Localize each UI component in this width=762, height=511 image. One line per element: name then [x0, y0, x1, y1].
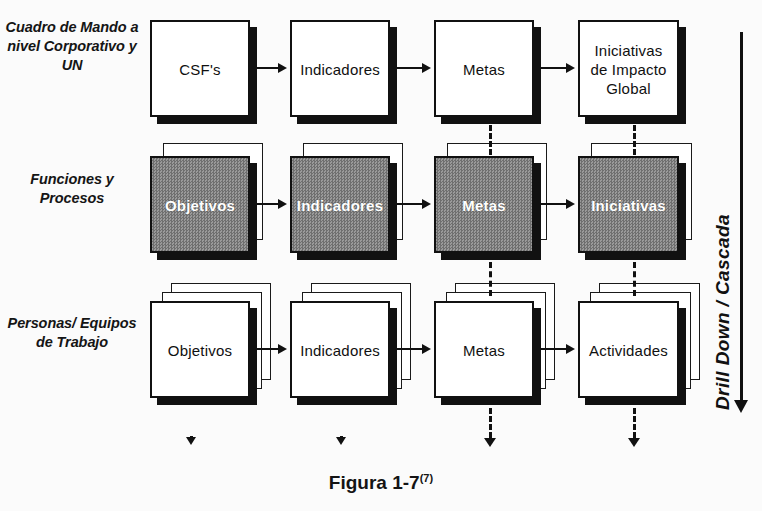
- box-front[interactable]: Iniciativas de Impacto Global: [578, 20, 679, 117]
- arrow-r1c2-to-r1c3: [394, 63, 432, 73]
- arrow-r2c3-to-r2c4: [538, 199, 576, 209]
- arrow-r1c1-to-r1c2: [254, 63, 288, 73]
- box-front[interactable]: Indicadores: [290, 301, 390, 398]
- arrow-r1c3-to-r1c4: [538, 63, 576, 73]
- node-label: CSF's: [152, 59, 248, 78]
- arrow-r2c2-to-r2c3: [394, 199, 432, 209]
- dashed-connector-c4-below: [633, 408, 636, 438]
- arrow-r3c1-to-r3c2: [254, 344, 288, 354]
- box-front[interactable]: CSF's: [150, 20, 250, 117]
- figure-caption-superscript: (7): [420, 472, 433, 484]
- box-front[interactable]: Objetivos: [150, 301, 250, 398]
- dashed-connector-c3-r1-r2: [489, 125, 492, 155]
- node-label: Metas: [436, 340, 532, 359]
- node-label: Iniciativas de Impacto Global: [580, 40, 677, 97]
- dashed-connector-c3-below: [489, 408, 492, 438]
- node-label: Indicadores: [292, 59, 388, 78]
- row-label-corporativo: Cuadro de Mando a nivel Corporativo y UN: [2, 18, 142, 75]
- arrow-r3c3-to-r3c4: [538, 344, 576, 354]
- node-label: Indicadores: [292, 195, 388, 214]
- drill-down-axis-line: [740, 32, 743, 402]
- figure-canvas: Cuadro de Mando a nivel Corporativo y UN…: [0, 0, 762, 511]
- row-label-funciones: Funciones y Procesos: [2, 170, 142, 208]
- node-label: Objetivos: [152, 195, 248, 214]
- tick-arrowhead-c2: [336, 437, 346, 445]
- dashed-connector-c4-r2-r3: [633, 262, 636, 296]
- node-label: Indicadores: [292, 340, 388, 359]
- box-front[interactable]: Actividades: [578, 301, 679, 398]
- node-label: Metas: [436, 195, 532, 214]
- drill-down-axis-label: Drill Down / Cascada: [712, 214, 734, 410]
- box-front[interactable]: Metas: [434, 301, 534, 398]
- figure-caption: Figura 1-7(7): [0, 472, 762, 494]
- dashed-connector-c4-r1-r2: [633, 125, 636, 155]
- arrow-r3c2-to-r3c3: [394, 344, 432, 354]
- tick-arrowhead-c1: [186, 437, 196, 445]
- box-front[interactable]: Metas: [434, 20, 534, 117]
- drill-down-axis-arrowhead: [734, 400, 748, 413]
- node-label: Objetivos: [152, 340, 248, 359]
- node-label: Metas: [436, 59, 532, 78]
- node-label: Actividades: [580, 340, 677, 359]
- box-front[interactable]: Indicadores: [290, 20, 390, 117]
- dashed-connector-c3-r2-r3: [489, 262, 492, 296]
- figure-caption-text: Figura 1-7: [329, 472, 420, 493]
- box-front[interactable]: Iniciativas: [578, 156, 679, 253]
- box-front[interactable]: Objetivos: [150, 156, 250, 253]
- dashed-arrowhead-c4: [628, 438, 640, 447]
- box-front[interactable]: Metas: [434, 156, 534, 253]
- row-label-personas: Personas/ Equipos de Trabajo: [2, 314, 142, 352]
- node-label: Iniciativas: [580, 195, 677, 214]
- arrow-r2c1-to-r2c2: [254, 199, 288, 209]
- box-front[interactable]: Indicadores: [290, 156, 390, 253]
- dashed-arrowhead-c3: [484, 438, 496, 447]
